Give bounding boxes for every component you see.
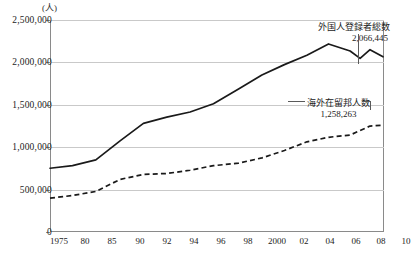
annotation-foreign-value: 2,066,445 bbox=[318, 33, 390, 44]
annotation-overseas-leader-left bbox=[288, 101, 305, 102]
series-line-overseas-japanese bbox=[50, 125, 383, 198]
annotation-overseas-japanese: 海外在留邦人数 1,258,263 bbox=[307, 98, 370, 120]
annotation-overseas-value: 1,258,263 bbox=[307, 109, 370, 120]
annotation-overseas-label: 海外在留邦人数 bbox=[307, 98, 370, 108]
chart-container: (人) 2,500,000 2,000,000 1,500,000 1,000,… bbox=[0, 0, 416, 256]
annotation-foreign-registrants: 外国人登録者総数 2,066,445 bbox=[318, 22, 390, 44]
annotation-overseas-leader-right-top bbox=[362, 101, 371, 102]
annotation-foreign-leader-line bbox=[358, 34, 359, 64]
annotation-overseas-leader-right bbox=[370, 101, 371, 110]
annotation-foreign-label: 外国人登録者総数 bbox=[318, 22, 390, 32]
